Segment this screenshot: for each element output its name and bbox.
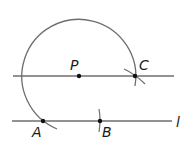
label-c: C xyxy=(139,57,149,73)
label-p: P xyxy=(70,57,79,73)
point-b xyxy=(98,119,102,123)
label-line-l: l xyxy=(176,114,180,130)
geometry-diagram: P C A B l xyxy=(0,0,190,146)
point-a xyxy=(41,119,45,123)
point-p xyxy=(77,74,81,78)
point-c xyxy=(133,74,137,78)
label-b: B xyxy=(102,124,112,140)
label-a: A xyxy=(31,124,42,140)
